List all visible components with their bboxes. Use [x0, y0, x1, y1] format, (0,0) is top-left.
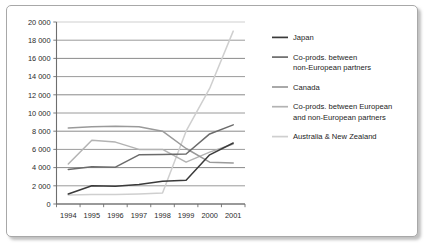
y-axis-tick-label: 14 000 — [28, 72, 51, 81]
chart-plot-wrapper: 02 0004 0006 0008 00010 00012 00014 0001… — [7, 6, 419, 238]
y-axis-tick-label: 0 — [46, 200, 50, 209]
y-axis-tick-label: 10 000 — [28, 109, 51, 118]
legend-label: Japan — [293, 33, 314, 42]
legend-label: Co-prods. between European — [293, 102, 392, 111]
series-line — [68, 140, 233, 164]
legend-label: Co-prods. between — [293, 53, 357, 62]
y-axis-tick-labels: 02 0004 0006 0008 00010 00012 00014 0001… — [28, 18, 51, 209]
y-axis-tick-label: 16 000 — [28, 54, 51, 63]
legend-label: Canada — [293, 83, 320, 92]
series-line — [68, 143, 233, 194]
y-axis-tick-label: 2 000 — [32, 182, 51, 191]
legend-label: non-European partners — [293, 63, 371, 72]
x-axis-tick-labels: 19941995199619971998199920002001 — [60, 211, 241, 220]
x-axis-tick-label: 1996 — [107, 211, 123, 220]
line-chart: 02 0004 0006 0008 00010 00012 00014 0001… — [7, 6, 419, 238]
x-axis-tick-label: 1994 — [60, 211, 76, 220]
x-axis-tick-label: 1995 — [84, 211, 100, 220]
y-axis-tick-label: 20 000 — [28, 18, 51, 27]
legend-label: and non-European partners — [293, 113, 386, 122]
chart-container: 02 0004 0006 0008 00010 00012 00014 0001… — [6, 5, 418, 237]
y-axis-tick-label: 18 000 — [28, 36, 51, 45]
y-axis-tick-label: 6 000 — [32, 145, 51, 154]
chart-legend: JapanCo-prods. betweennon-European partn… — [272, 33, 392, 141]
x-axis-tick-label: 1997 — [131, 211, 147, 220]
x-axis-tick-label: 1998 — [154, 211, 170, 220]
x-axis-tick-label: 2001 — [225, 211, 241, 220]
series-line — [68, 126, 233, 163]
legend-label: Australia & New Zealand — [293, 132, 377, 141]
gridlines — [57, 22, 246, 204]
y-axis-tick-label: 8 000 — [32, 127, 51, 136]
x-axis-tick-label: 2000 — [201, 211, 217, 220]
x-axis-tick-label: 1999 — [178, 211, 194, 220]
y-axis-tick-label: 12 000 — [28, 91, 51, 100]
y-axis-tick-label: 4 000 — [32, 163, 51, 172]
